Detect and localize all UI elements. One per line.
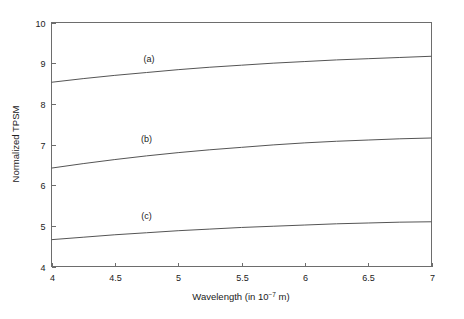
y-tick-label: 4 (40, 263, 45, 273)
y-tick-label: 7 (40, 141, 45, 151)
x-tick-label: 5.5 (236, 273, 249, 283)
y-tick-label: 10 (35, 19, 45, 29)
curve-label-a: (a) (144, 54, 155, 64)
x-tick-label: 6 (303, 273, 308, 283)
x-axis-ticks (53, 263, 433, 267)
y-axis-tick-labels: 45678910 (35, 19, 45, 273)
y-tick-label: 9 (40, 59, 45, 69)
chart-figure: 44.555.566.57 45678910 (a)(b)(c) Wavelen… (0, 0, 464, 319)
x-axis-tick-labels: 44.555.566.57 (50, 273, 435, 283)
x-tick-label: 7 (430, 273, 435, 283)
y-tick-label: 6 (40, 181, 45, 191)
x-tick-label: 6.5 (362, 273, 375, 283)
x-tick-label: 5 (176, 273, 181, 283)
x-tick-label: 4 (50, 273, 55, 283)
y-tick-label: 8 (40, 100, 45, 110)
data-curves (52, 56, 432, 239)
y-axis-title: Normalized TPSM (10, 105, 21, 182)
data-curve-c (52, 222, 432, 240)
plot-frame (52, 23, 432, 267)
curve-label-c: (c) (141, 211, 152, 221)
data-curve-a (52, 56, 432, 82)
x-axis-title: Wavelength (in 10−7 m) (192, 291, 289, 303)
y-tick-label: 5 (40, 222, 45, 232)
y-axis-ticks (52, 24, 56, 268)
data-curve-b (52, 138, 432, 168)
curve-annotations: (a)(b)(c) (141, 54, 155, 221)
curve-label-b: (b) (141, 134, 152, 144)
x-tick-label: 4.5 (109, 273, 122, 283)
